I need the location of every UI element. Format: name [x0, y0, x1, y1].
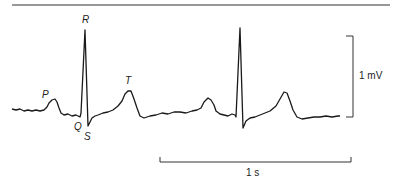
voltage-scale-bar [346, 36, 353, 117]
time-scale-bar [160, 157, 351, 162]
voltage-scale-label: 1 mV [359, 71, 382, 81]
p-wave-label: P [42, 90, 49, 100]
t-wave-label: T [125, 76, 131, 86]
ecg-trace [12, 28, 340, 128]
time-scale-label: 1 s [246, 168, 259, 178]
ecg-diagram [0, 0, 396, 186]
q-wave-label: Q [74, 122, 82, 132]
r-wave-label: R [82, 15, 89, 25]
s-wave-label: S [84, 132, 91, 142]
